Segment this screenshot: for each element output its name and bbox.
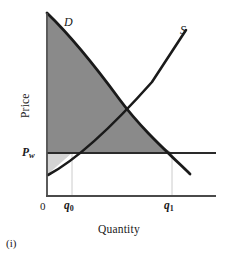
x-tick-q1-base: q <box>164 199 170 211</box>
world-price-label: Pw <box>22 147 35 159</box>
figure-caption: (i) <box>6 238 16 249</box>
world-price-label-subscript: w <box>29 150 35 160</box>
y-axis-title: Price <box>20 93 32 118</box>
x-tick-q0-subscript: 0 <box>70 204 74 213</box>
world-price-label-base: P <box>22 146 29 158</box>
x-tick-q0: q0 <box>64 200 74 212</box>
x-axis-title: Quantity <box>98 224 140 236</box>
supply-curve-label: S <box>180 24 186 36</box>
x-tick-q1-subscript: 1 <box>170 204 174 213</box>
demand-curve-label: D <box>64 16 73 28</box>
x-tick-q0-base: q <box>64 199 70 211</box>
plot-canvas <box>0 0 247 260</box>
origin-label: 0 <box>40 201 46 212</box>
x-tick-q1: q1 <box>164 200 174 212</box>
economics-supply-demand-figure: Price Quantity D S Pw 0 q0 q1 (i) <box>0 0 247 260</box>
